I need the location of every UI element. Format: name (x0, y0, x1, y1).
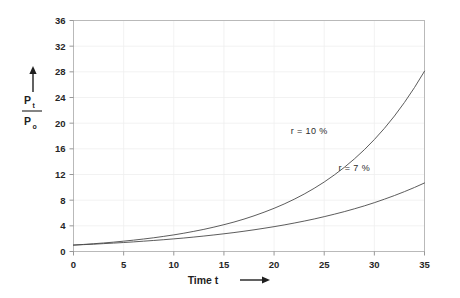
y-axis-numerator: P (24, 94, 31, 106)
data-curve-2 (74, 183, 425, 245)
x-axis-tick-labels: 05101520253035 (71, 259, 431, 270)
series-label-1: r = 10 % (291, 126, 328, 136)
series-label-2: r = 7 % (339, 163, 371, 173)
y-tick-label: 24 (55, 92, 66, 103)
chart-figure: 04812162024283236 05101520253035 r = 10 … (0, 0, 460, 298)
y-tick-label: 12 (55, 169, 66, 180)
x-tick-label: 5 (121, 259, 127, 270)
x-tick-label: 25 (319, 259, 330, 270)
y-tick-label: 20 (55, 118, 66, 129)
up-arrow-head-icon (29, 66, 36, 74)
y-tick-label: 32 (55, 41, 66, 52)
y-tick-label: 16 (55, 143, 66, 154)
x-tick-label: 20 (269, 259, 280, 270)
y-axis-denominator: P (24, 115, 31, 127)
y-axis-title-group: P t P o (22, 66, 42, 130)
x-tick-label: 35 (419, 259, 430, 270)
tick-marks (70, 21, 425, 256)
x-tick-label: 10 (168, 259, 179, 270)
y-tick-label: 0 (60, 246, 65, 257)
x-axis-title: Time t (188, 274, 219, 286)
y-axis-numerator-subscript: t (33, 102, 36, 109)
y-tick-label: 36 (55, 15, 66, 26)
right-arrow-head-icon (262, 276, 270, 283)
x-axis-title-group: Time t (188, 274, 270, 286)
y-tick-label: 4 (60, 220, 66, 231)
x-tick-label: 15 (219, 259, 230, 270)
x-tick-label: 30 (369, 259, 380, 270)
x-tick-label: 0 (71, 259, 76, 270)
y-axis-tick-labels: 04812162024283236 (55, 15, 66, 257)
y-tick-label: 8 (60, 195, 65, 206)
compound-growth-line-chart: 04812162024283236 05101520253035 r = 10 … (0, 0, 460, 298)
y-tick-label: 28 (55, 66, 66, 77)
plot-area-border (74, 21, 425, 252)
series-annotations: r = 10 %r = 7 % (291, 126, 370, 173)
gridlines (74, 21, 425, 252)
y-axis-denominator-subscript: o (33, 123, 37, 130)
